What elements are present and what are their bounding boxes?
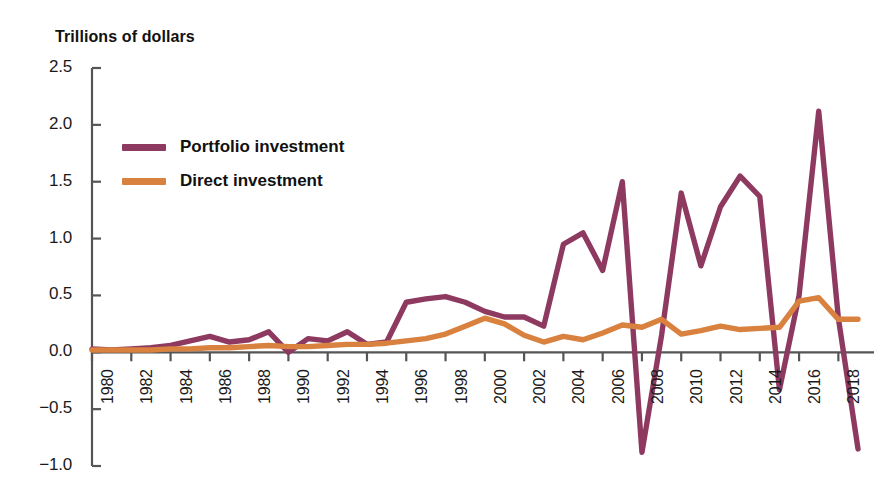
legend-swatch-portfolio-investment	[122, 144, 166, 151]
x-tick-label: 2008	[649, 369, 667, 404]
x-tick-label: 2014	[767, 369, 785, 404]
x-tick-label: 1996	[413, 369, 431, 404]
y-tick-label: −0.5	[20, 398, 72, 418]
x-tick-label: 2010	[688, 369, 706, 404]
x-tick-label: 1994	[374, 369, 392, 404]
legend-item-portfolio-investment: Portfolio investment	[122, 130, 344, 164]
legend-label-portfolio-investment: Portfolio investment	[180, 137, 344, 157]
legend-swatch-direct-investment	[122, 178, 166, 185]
x-tick-label: 1990	[295, 369, 313, 404]
y-tick-label: 2.5	[20, 57, 72, 77]
legend-item-direct-investment: Direct investment	[122, 164, 344, 198]
x-tick-label: 1984	[178, 369, 196, 404]
x-tick-label: 2016	[806, 369, 824, 404]
chart-legend: Portfolio investment Direct investment	[122, 130, 344, 198]
plot-area	[0, 0, 896, 490]
x-tick-label: 2006	[610, 369, 628, 404]
y-tick-label: 0.5	[20, 284, 72, 304]
legend-label-direct-investment: Direct investment	[180, 171, 323, 191]
x-tick-label: 2018	[845, 369, 863, 404]
y-tick-label: 0.0	[20, 341, 72, 361]
x-tick-label: 2002	[531, 369, 549, 404]
x-tick-label: 1980	[99, 369, 117, 404]
x-tick-label: 1992	[335, 369, 353, 404]
y-tick-label: 2.0	[20, 114, 72, 134]
x-tick-label: 2012	[728, 369, 746, 404]
x-tick-label: 2004	[570, 369, 588, 404]
chart-svg	[0, 0, 896, 490]
chart-container: Trillions of dollars 2.52.01.51.00.50.0−…	[0, 0, 896, 490]
x-tick-label: 2000	[492, 369, 510, 404]
x-tick-label: 1982	[138, 369, 156, 404]
x-tick-label: 1986	[217, 369, 235, 404]
y-tick-label: −1.0	[20, 455, 72, 475]
x-tick-label: 1988	[256, 369, 274, 404]
y-tick-label: 1.5	[20, 171, 72, 191]
y-tick-label: 1.0	[20, 228, 72, 248]
x-tick-label: 1998	[453, 369, 471, 404]
